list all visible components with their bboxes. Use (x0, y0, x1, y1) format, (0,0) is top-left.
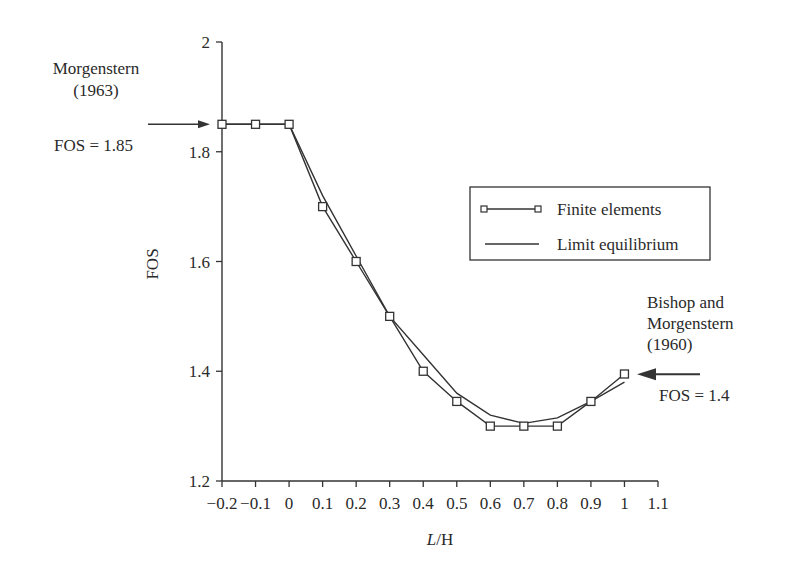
annotation-fos-1-85: FOS = 1.85 (54, 136, 133, 156)
square-marker-icon (587, 397, 595, 405)
annotation-bishop-morgenstern: Bishop and Morgenstern (1960) (647, 292, 734, 355)
annotation-year: (1963) (36, 81, 156, 101)
x-tick-label: 0.5 (446, 494, 467, 513)
annotation-title: Bishop and (647, 292, 734, 313)
line-limit-equilibrium (222, 124, 624, 423)
x-tick-label: 0.4 (413, 494, 435, 513)
square-marker-icon (218, 120, 226, 128)
square-marker-icon (553, 422, 561, 430)
x-tick-label: 0 (285, 494, 294, 513)
y-axis-label: FOS (143, 248, 162, 279)
y-tick-label: 1.2 (189, 472, 210, 491)
annotation-year: (1960) (647, 334, 734, 355)
x-tick-label: −0.1 (240, 494, 271, 513)
legend-label: Limit equilibrium (557, 235, 678, 254)
axes: 1.21.41.61.82−0.2−0.100.10.20.30.40.50.6… (189, 33, 669, 513)
annotation-morgenstern: Morgenstern (1963) (36, 59, 156, 101)
x-tick-label: 0.3 (379, 494, 400, 513)
y-tick-label: 2 (202, 33, 211, 52)
square-marker-icon (285, 120, 293, 128)
arrowhead-icon (637, 368, 656, 380)
x-tick-label: 0.9 (580, 494, 601, 513)
y-tick-label: 1.4 (189, 362, 211, 381)
annotation-fos-1-4: FOS = 1.4 (659, 386, 730, 406)
square-marker-icon (386, 312, 394, 320)
series-limit-equilibrium (222, 124, 624, 423)
legend-label: Finite elements (557, 200, 661, 219)
x-tick-label: 0.1 (312, 494, 333, 513)
square-marker-icon (520, 422, 528, 430)
x-tick-label: −0.2 (207, 494, 238, 513)
square-marker-icon (486, 422, 494, 430)
x-tick-label: 1.1 (647, 494, 668, 513)
y-tick-label: 1.6 (189, 253, 210, 272)
square-marker-icon (419, 367, 427, 375)
square-marker-icon (620, 370, 628, 378)
annotation-title: Morgenstern (36, 59, 156, 79)
square-marker-icon (535, 206, 541, 212)
square-marker-icon (481, 206, 487, 212)
annotation-title-2: Morgenstern (647, 313, 734, 334)
y-tick-label: 1.8 (189, 143, 210, 162)
x-tick-label: 0.6 (480, 494, 501, 513)
square-marker-icon (453, 397, 461, 405)
x-tick-label: 0.8 (547, 494, 568, 513)
line-finite-elements (222, 124, 624, 426)
legend: Finite elements Limit equilibrium (470, 187, 710, 260)
x-tick-label: 0.7 (513, 494, 535, 513)
square-marker-icon (319, 203, 327, 211)
x-axis-label: L/H (426, 530, 453, 549)
series-finite-elements (218, 120, 628, 430)
x-tick-label: 0.2 (346, 494, 367, 513)
x-tick-label: 1 (620, 494, 629, 513)
square-marker-icon (252, 120, 260, 128)
arrowhead-icon (198, 120, 210, 128)
square-marker-icon (352, 258, 360, 266)
